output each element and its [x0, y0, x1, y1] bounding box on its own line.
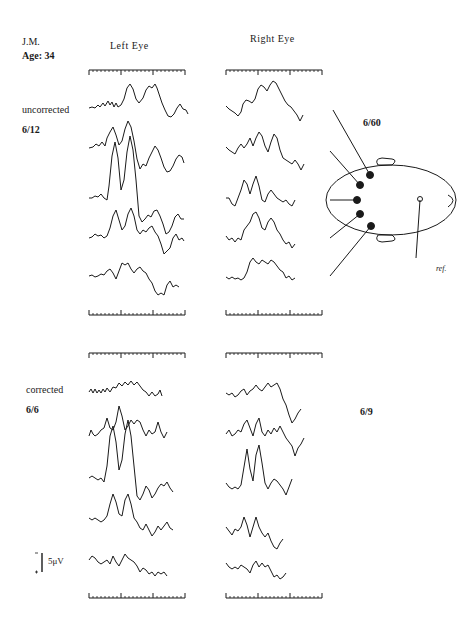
vep-figure: [0, 0, 462, 632]
ear-icon: [377, 158, 395, 165]
waveforms-right-corrected: [226, 383, 304, 579]
ear-icon: [377, 235, 395, 242]
head-diagram: [326, 110, 456, 276]
waveforms-left-uncorrected: [89, 84, 188, 295]
waveforms-right-uncorrected: [226, 81, 304, 280]
timebase-rulers: [89, 70, 322, 598]
scale-bar: [35, 553, 42, 574]
nose-icon: [448, 195, 453, 207]
waveforms-left-corrected: [89, 381, 173, 576]
